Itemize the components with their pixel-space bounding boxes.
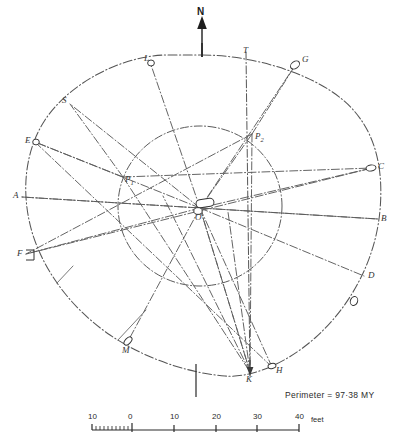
stone-marker-unlabelled-se bbox=[349, 295, 359, 306]
north-label: N bbox=[197, 6, 204, 17]
scale-units-label: feet bbox=[311, 415, 324, 424]
stone-label-M: M bbox=[122, 346, 130, 355]
focus-label-P1: P1 bbox=[125, 175, 134, 186]
stone-label-E: E bbox=[25, 136, 31, 145]
stone-label-B: B bbox=[381, 214, 387, 223]
stone-label-H: H bbox=[276, 366, 283, 375]
focus-label-subscript: 1 bbox=[131, 179, 134, 186]
stone-marker-G bbox=[289, 59, 301, 70]
stone-label-A: A bbox=[13, 191, 19, 200]
stone-label-S: S bbox=[62, 96, 67, 105]
scale-tick-label-10-0: 10 bbox=[88, 412, 97, 421]
stone-label-K: K bbox=[246, 375, 252, 384]
perimeter-note: Perimeter = 97·38 MY bbox=[285, 390, 374, 400]
stone-marker-E bbox=[33, 139, 40, 145]
survey-plan-drawing bbox=[0, 0, 397, 448]
stone-label-C: C bbox=[378, 162, 384, 171]
scale-tick-label-20-3: 20 bbox=[212, 412, 221, 421]
axis-north-south bbox=[246, 52, 250, 376]
stone-label-D: D bbox=[368, 271, 375, 280]
scale-tick-label-10-2: 10 bbox=[170, 412, 179, 421]
stone-label-F: F bbox=[17, 249, 23, 258]
focus-label-subscript: 2 bbox=[261, 136, 264, 143]
survey-tick-marks bbox=[57, 266, 146, 340]
scale-tick-label-0-1: 0 bbox=[128, 412, 132, 421]
stone-marker-C bbox=[366, 164, 377, 171]
centre-label-O: O bbox=[195, 213, 202, 222]
scale-tick-label-40-5: 40 bbox=[295, 412, 304, 421]
scale-bar bbox=[92, 423, 299, 432]
stone-label-T: T bbox=[243, 46, 248, 55]
stone-label-G: G bbox=[302, 55, 309, 64]
focus-label-P2: P2 bbox=[255, 132, 264, 143]
stone-label-L: L bbox=[144, 54, 149, 63]
scale-tick-label-30-4: 30 bbox=[253, 412, 262, 421]
